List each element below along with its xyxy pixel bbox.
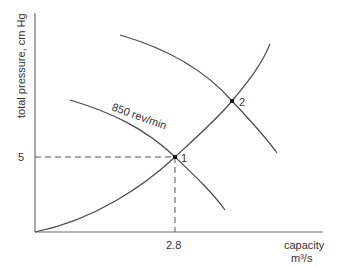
chart-canvas: 1 2 5 2.8 capacity m³/s total pressure, … (0, 0, 341, 267)
operating-point-1 (173, 155, 177, 159)
y-axis-label: total pressure, cm Hg (15, 13, 27, 118)
x-axis-label: capacity (284, 239, 325, 251)
point-2-label: 2 (239, 96, 245, 108)
operating-point-2 (230, 99, 234, 103)
curve-label-850: 850 rev/min (110, 101, 168, 132)
x-axis-unit: m³/s (291, 252, 313, 264)
point-1-label: 1 (181, 152, 187, 164)
y-tick-5: 5 (18, 151, 24, 163)
x-tick-2-8: 2.8 (166, 239, 181, 251)
